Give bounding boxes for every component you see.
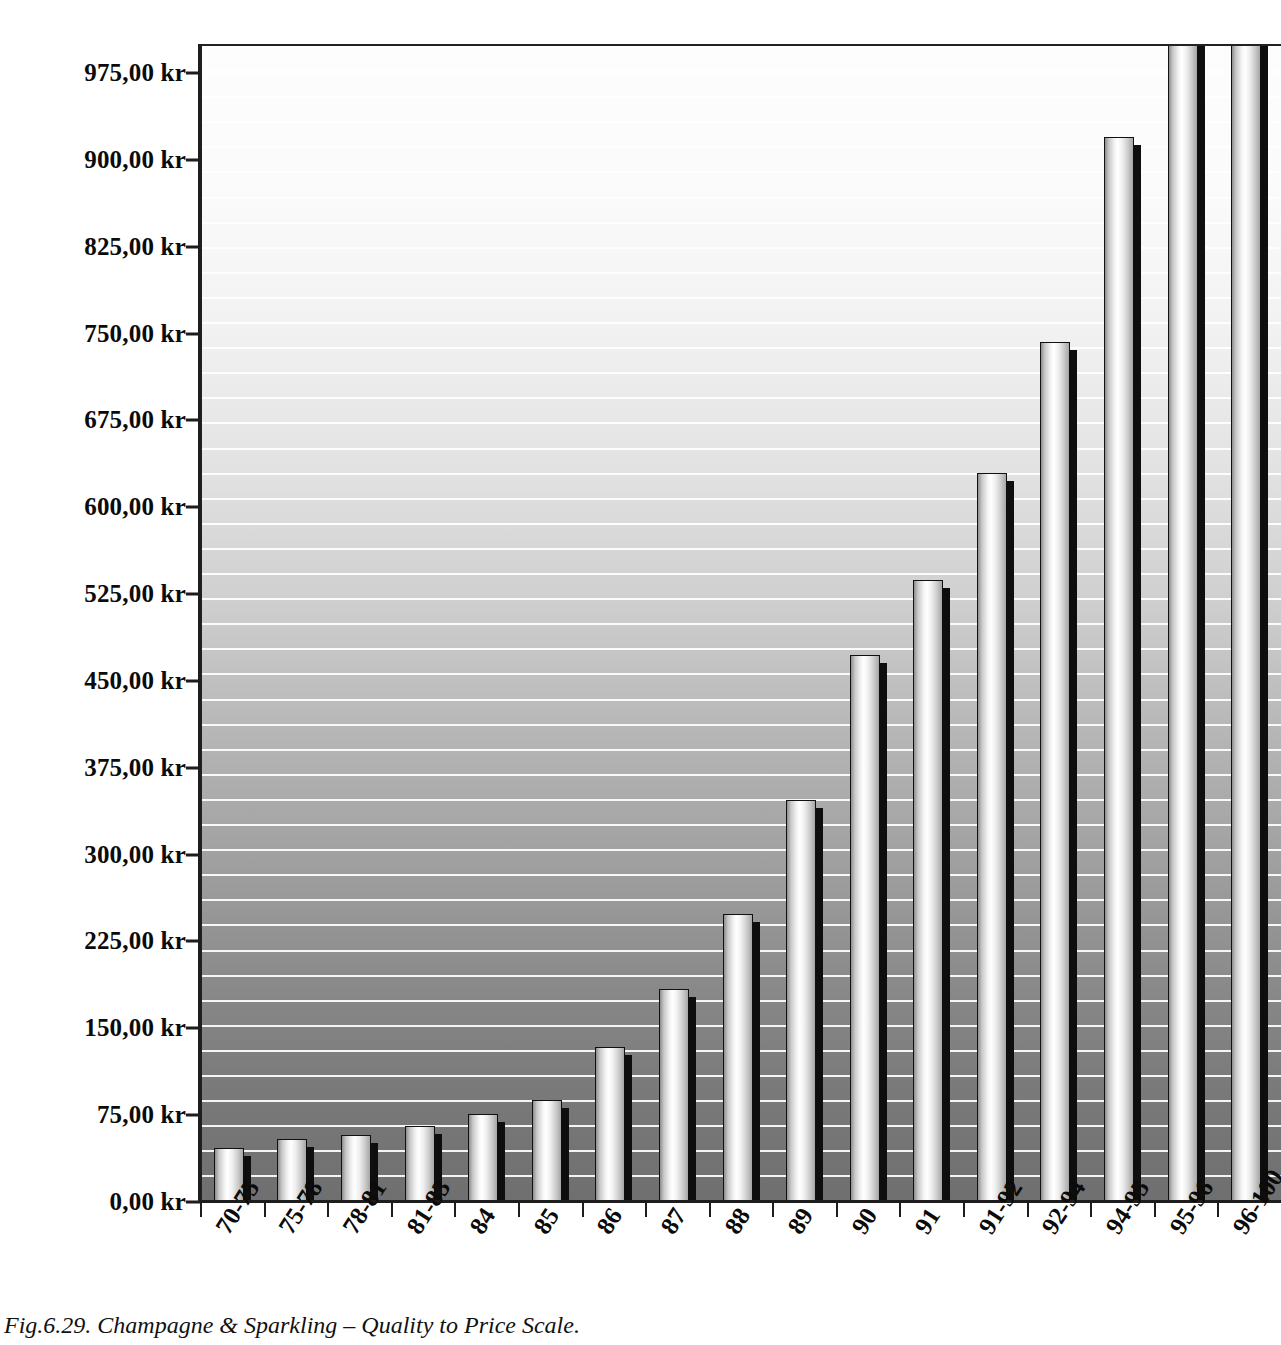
x-axis-tick-label: 86: [591, 1203, 628, 1239]
x-axis-tick-mark: [200, 1202, 202, 1217]
figure-caption: Fig.6.29. Champagne & Sparkling – Qualit…: [4, 1312, 580, 1339]
x-axis-tick-label: 84: [464, 1203, 501, 1239]
bar-shadow: [1133, 145, 1141, 1202]
y-axis-tick-label: 600,00 kr: [0, 493, 186, 521]
bar: [850, 655, 880, 1202]
y-axis-tick-label: 525,00 kr: [0, 580, 186, 608]
x-axis-tick-mark: [1027, 1202, 1029, 1217]
bar: [659, 989, 689, 1202]
x-axis-tick-mark: [582, 1202, 584, 1217]
x-axis-tick-mark: [1090, 1202, 1092, 1217]
bar-shadow: [497, 1122, 505, 1202]
bar-shadow: [624, 1055, 632, 1202]
bar: [786, 800, 816, 1202]
bar: [1040, 342, 1070, 1202]
x-axis-tick-mark: [264, 1202, 266, 1217]
x-axis-tick-mark: [1217, 1202, 1219, 1217]
bar-shadow: [815, 808, 823, 1202]
x-axis-tick-mark: [518, 1202, 520, 1217]
bar-shadow: [561, 1108, 569, 1202]
y-axis-tick-label: 900,00 kr: [0, 146, 186, 174]
y-axis-tick-label: 150,00 kr: [0, 1014, 186, 1042]
bar: [1104, 137, 1134, 1202]
y-axis-tick-label: 75,00 kr: [0, 1101, 186, 1129]
bar-shadow: [1006, 481, 1014, 1203]
y-axis-tick-label: 825,00 kr: [0, 233, 186, 261]
plot-area: [200, 44, 1281, 1202]
bar-shadow: [879, 663, 887, 1202]
x-axis-tick-mark: [327, 1202, 329, 1217]
bar: [1231, 44, 1261, 1202]
x-axis-tick-label: 87: [655, 1203, 692, 1239]
x-axis-tick-mark: [1154, 1202, 1156, 1217]
bar: [468, 1114, 498, 1202]
x-axis-tick-mark: [772, 1202, 774, 1217]
bar: [723, 914, 753, 1202]
bar-shadow: [942, 588, 950, 1202]
y-axis-tick-label: 0,00 kr: [0, 1188, 186, 1216]
x-axis-tick-mark: [963, 1202, 965, 1217]
bar: [977, 473, 1007, 1203]
x-axis-tick-mark: [645, 1202, 647, 1217]
x-axis-tick-mark: [836, 1202, 838, 1217]
y-axis-tick-label: 975,00 kr: [0, 59, 186, 87]
bar-shadow: [1069, 350, 1077, 1202]
bar-shadow: [1260, 44, 1268, 1202]
x-axis-tick-label: 85: [528, 1203, 565, 1239]
x-axis-tick-mark: [391, 1202, 393, 1217]
bar-shadow: [688, 997, 696, 1202]
y-axis-tick-label: 450,00 kr: [0, 667, 186, 695]
figure-container: 975,00 kr900,00 kr825,00 kr750,00 kr675,…: [0, 0, 1281, 1345]
y-axis-tick-label: 375,00 kr: [0, 754, 186, 782]
y-axis-tick-label: 225,00 kr: [0, 927, 186, 955]
x-axis-tick-mark: [899, 1202, 901, 1217]
bar: [913, 580, 943, 1202]
x-axis-tick-label: 90: [846, 1203, 883, 1239]
x-axis-tick-mark: [709, 1202, 711, 1217]
x-axis-tick-label: 91: [909, 1203, 946, 1239]
bar: [532, 1100, 562, 1202]
bar: [1168, 44, 1198, 1202]
bar-shadow: [1197, 44, 1205, 1202]
x-axis-tick-label: 89: [782, 1203, 819, 1239]
x-axis-tick-mark: [454, 1202, 456, 1217]
y-axis-line: [198, 44, 201, 1203]
y-axis-tick-label: 300,00 kr: [0, 841, 186, 869]
x-axis-tick-label: 88: [719, 1203, 756, 1239]
y-axis-tick-label: 675,00 kr: [0, 406, 186, 434]
bar-shadow: [752, 922, 760, 1202]
y-axis-tick-label: 750,00 kr: [0, 320, 186, 348]
bar: [595, 1047, 625, 1202]
